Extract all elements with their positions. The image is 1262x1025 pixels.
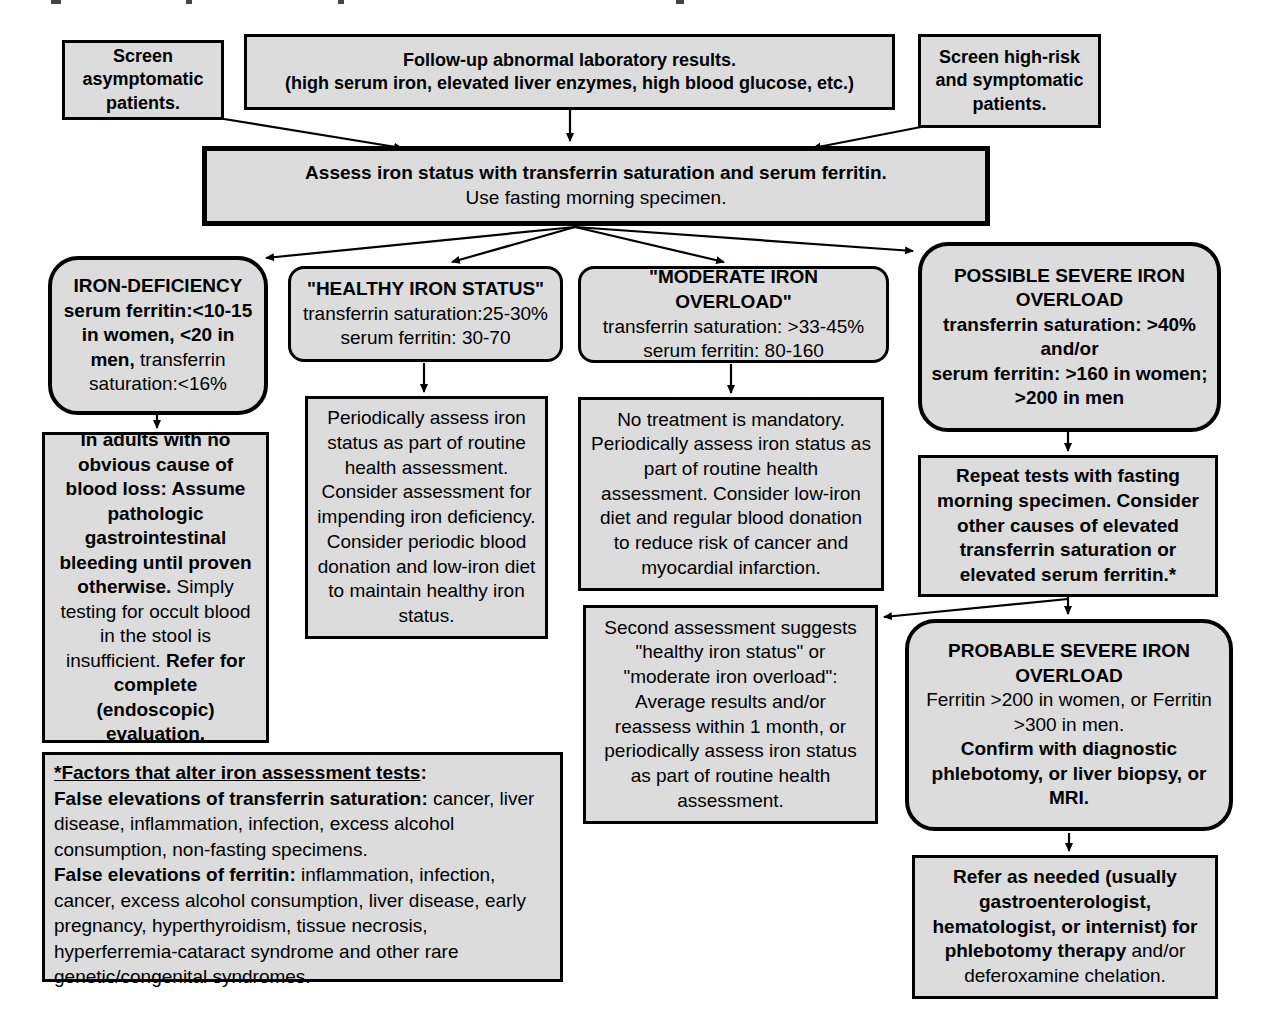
- node-title: IRON-DEFICIENCY: [61, 274, 255, 299]
- node-text: Screen high-risk and symptomatic patient…: [930, 46, 1089, 116]
- cropped-text-fragment: [676, 0, 684, 4]
- node-title: "HEALTHY IRON STATUS": [300, 277, 551, 302]
- arrow-assess-to-healthy: [452, 227, 575, 262]
- arrow-repeat-tests-to-second-assessment: [884, 599, 1068, 617]
- node-line: and/or: [931, 337, 1208, 362]
- footnote-heading: *Factors that alter iron assessment test…: [54, 760, 551, 786]
- node-second-assessment: Second assessment suggests "healthy iron…: [583, 605, 878, 824]
- node-iron-deficiency: IRON-DEFICIENCY serum ferritin:<10-15 in…: [48, 256, 268, 415]
- node-line: Follow-up abnormal laboratory results.: [256, 49, 883, 72]
- node-line: Confirm with diagnostic phlebotomy, or l…: [918, 737, 1220, 811]
- node-assess-iron-status: Assess iron status with transferrin satu…: [202, 146, 990, 226]
- node-line: Assess iron status with transferrin satu…: [216, 161, 976, 186]
- node-line: serum ferritin: >160 in women; >200 in m…: [931, 362, 1208, 411]
- node-text: Periodically assess iron status as part …: [317, 406, 536, 628]
- arrow-screen-asymptomatic-to-assess: [224, 119, 402, 148]
- node-refer-as-needed: Refer as needed (usually gastroenterolog…: [912, 855, 1218, 999]
- node-line: transferrin saturation: >40%: [931, 313, 1208, 338]
- node-line: transferrin saturation: >33-45%: [590, 315, 877, 340]
- node-footnote-factors: *Factors that alter iron assessment test…: [42, 752, 563, 982]
- cropped-text-fragment: [51, 0, 61, 4]
- node-moderate-iron-overload: "MODERATE IRON OVERLOAD" transferrin sat…: [578, 266, 889, 363]
- node-screen-asymptomatic: Screen asymptomatic patients.: [62, 40, 224, 120]
- node-in-adults-blood-loss: In adults with no obvious cause of blood…: [42, 432, 269, 743]
- node-line: transferrin saturation:25-30%: [300, 302, 551, 327]
- footnote-paragraph: False elevations of transferrin saturati…: [54, 786, 551, 863]
- node-probable-severe-iron-overload: PROBABLE SEVERE IRON OVERLOAD Ferritin >…: [905, 619, 1233, 831]
- node-no-treatment-mandatory: No treatment is mandatory. Periodically …: [578, 397, 884, 591]
- flowchart-canvas: Screen asymptomatic patients. Follow-up …: [0, 0, 1262, 1025]
- node-title: PROBABLE SEVERE IRON OVERLOAD: [918, 639, 1220, 688]
- node-periodic-assessment: Periodically assess iron status as part …: [305, 396, 548, 639]
- node-title: "MODERATE IRON OVERLOAD": [590, 265, 877, 314]
- node-line: serum ferritin: 30-70: [300, 326, 551, 351]
- arrow-assess-to-moderate: [575, 227, 724, 262]
- node-healthy-iron-status: "HEALTHY IRON STATUS" transferrin satura…: [288, 266, 563, 362]
- arrow-screen-high-risk-to-assess: [813, 127, 921, 148]
- node-line: serum ferritin: 80-160: [590, 339, 877, 364]
- footnote-paragraph: False elevations of ferritin: inflammati…: [54, 862, 551, 990]
- node-screen-high-risk: Screen high-risk and symptomatic patient…: [918, 34, 1101, 128]
- arrow-assess-to-possible-severe: [575, 227, 913, 251]
- cropped-text-fragment: [186, 0, 192, 4]
- node-text: Screen asymptomatic patients.: [74, 45, 212, 115]
- node-possible-severe-iron-overload: POSSIBLE SEVERE IRON OVERLOAD transferri…: [918, 242, 1221, 432]
- arrow-assess-to-iron-deficiency: [266, 227, 575, 258]
- node-repeat-tests: Repeat tests with fasting morning specim…: [918, 455, 1218, 597]
- node-follow-up-abnormal-results: Follow-up abnormal laboratory results. (…: [244, 34, 895, 110]
- node-text: serum ferritin:<10-15 in women, <20 in m…: [61, 299, 255, 397]
- node-text: Second assessment suggests "healthy iron…: [595, 616, 866, 814]
- node-text: Refer as needed (usually gastroenterolog…: [924, 865, 1206, 988]
- node-line: Use fasting morning specimen.: [216, 186, 976, 211]
- node-line: Ferritin >200 in women, or Ferritin >300…: [918, 688, 1220, 737]
- node-text: In adults with no obvious cause of blood…: [54, 428, 257, 747]
- cropped-text-fragment: [338, 0, 344, 4]
- node-text: Repeat tests with fasting morning specim…: [930, 464, 1206, 587]
- node-title: POSSIBLE SEVERE IRON OVERLOAD: [931, 264, 1208, 313]
- node-line: (high serum iron, elevated liver enzymes…: [256, 72, 883, 95]
- node-text: No treatment is mandatory. Periodically …: [590, 408, 872, 581]
